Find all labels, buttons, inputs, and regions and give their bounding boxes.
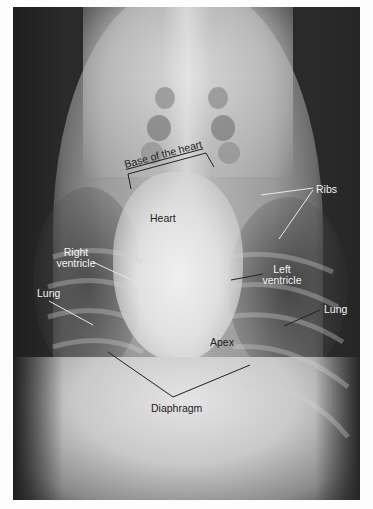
label-lung-right: Lung <box>324 304 347 315</box>
label-diaphragm: Diaphragm <box>151 403 202 414</box>
label-left-ventricle: Left ventricle <box>260 264 304 286</box>
label-lung-left: Lung <box>37 288 60 299</box>
label-left-ventricle-line2: ventricle <box>260 275 304 286</box>
label-apex: Apex <box>210 337 234 348</box>
label-ribs: Ribs <box>316 184 337 195</box>
xray-image: Base of the heart Heart Ribs Right ventr… <box>13 7 360 500</box>
label-heart: Heart <box>150 213 176 224</box>
label-right-ventricle: Right ventricle <box>53 247 99 269</box>
label-right-ventricle-line2: ventricle <box>53 258 99 269</box>
